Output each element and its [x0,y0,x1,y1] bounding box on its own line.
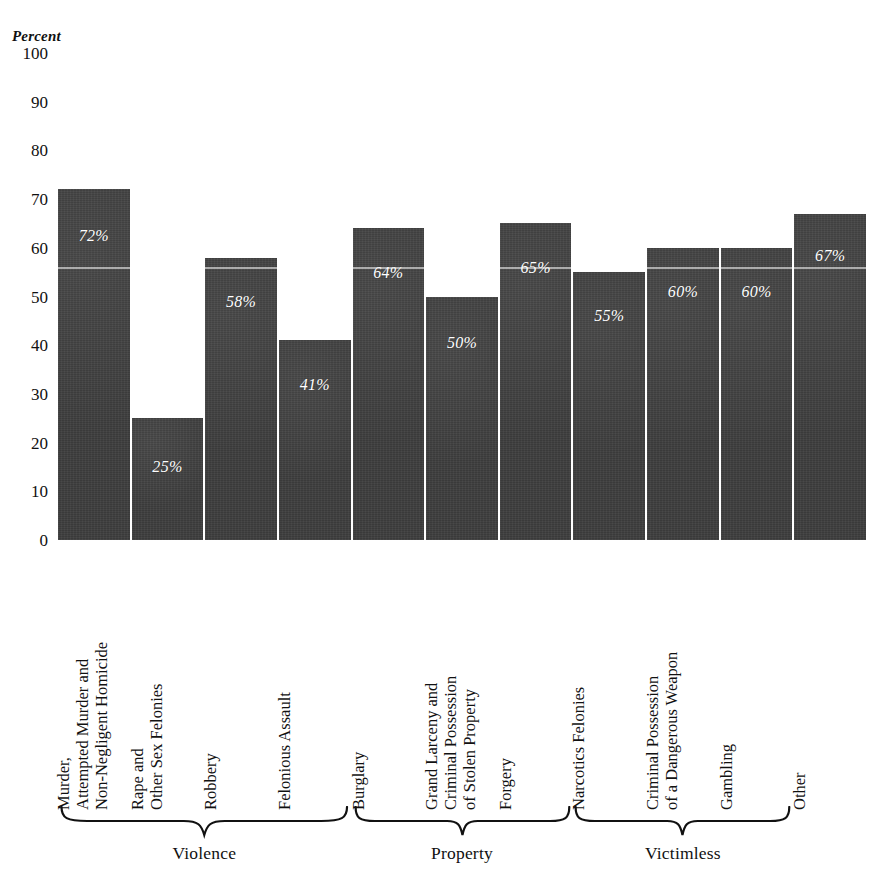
category-label-line: of a Dangerous Weapon [662,548,681,810]
y-tick-50: 50 [31,288,48,305]
category-label-column: Burglary [353,548,425,810]
category-label-line: of Stolen Property [460,548,479,810]
category-label-line: Burglary [349,548,368,810]
y-tick-20: 20 [31,434,48,451]
bar[interactable]: 58% [205,258,277,540]
bar-column: 60% [721,53,793,540]
bar-column: 64% [353,53,425,540]
y-tick-90: 90 [31,93,48,110]
bar[interactable]: 25% [132,418,204,540]
category-label-line: Forgery [496,548,515,810]
bar[interactable]: 55% [573,272,645,540]
group-label: Property [353,843,572,864]
bar[interactable]: 65% [500,223,572,540]
category-label-column: Other [794,548,866,810]
y-tick-0: 0 [40,532,49,549]
group-braces [58,806,866,846]
category-label-column: Forgery [500,548,572,810]
group-brace [58,806,351,840]
bar[interactable]: 67% [794,214,866,540]
cropped-heading-artifact [12,0,17,7]
y-tick-70: 70 [31,191,48,208]
bar-column: 41% [279,53,351,540]
bar-value-label: 72% [58,227,130,245]
bar-value-label: 60% [647,283,719,301]
bar-value-label: 67% [794,247,866,265]
category-label-line: Non-Negligent Homicide [92,548,111,810]
category-label-line: Criminal Possession [441,548,460,810]
category-label-column: Robbery [205,548,277,810]
plot-area: 72%25%58%41%64%50%65%55%60%60%67% [58,53,866,540]
category-label-line: Narcotics Felonies [569,548,588,810]
bar-value-label: 50% [426,334,498,352]
category-label-line: Criminal Possession [643,548,662,810]
group-brace [353,806,572,840]
category-label-line: Attempted Murder and [73,548,92,810]
category-label-column: Narcotics Felonies [573,548,645,810]
y-axis-title: Percent [12,28,61,45]
category-label-line: Murder, [54,548,73,810]
bar[interactable]: 72% [58,189,130,540]
bar-column: 60% [647,53,719,540]
bar-value-label: 65% [500,259,572,277]
y-tick-100: 100 [23,45,49,62]
category-label-column: Grand Larceny andCriminal Possessionof S… [426,548,498,810]
bar-column: 25% [132,53,204,540]
group-label: Victimless [573,843,792,864]
category-label-column: Rape andOther Sex Felonies [132,548,204,810]
bar-column: 65% [500,53,572,540]
category-label-line: Rape and [128,548,147,810]
y-tick-60: 60 [31,239,48,256]
bar-value-label: 41% [279,376,351,394]
y-tick-80: 80 [31,142,48,159]
category-label-column: Criminal Possessionof a Dangerous Weapon [647,548,719,810]
bar[interactable]: 60% [721,248,793,540]
category-label-line: Robbery [201,548,220,810]
bar[interactable]: 50% [426,297,498,541]
category-label-column: Murder,Attempted Murder andNon-Negligent… [58,548,130,810]
y-tick-40: 40 [31,337,48,354]
category-label-line: Other [790,548,809,810]
y-tick-30: 30 [31,385,48,402]
bar[interactable]: 41% [279,340,351,540]
category-label-column: Felonious Assault [279,548,351,810]
bar[interactable]: 60% [647,248,719,540]
group-labels: ViolencePropertyVictimless [58,843,866,873]
bar-column: 55% [573,53,645,540]
bar-value-label: 55% [573,307,645,325]
bar-value-label: 60% [721,283,793,301]
bar-series: 72%25%58%41%64%50%65%55%60%60%67% [58,53,866,540]
group-brace [573,806,792,840]
y-axis-tick-labels: 1009080706050403020100 [0,53,48,540]
category-label-line: Felonious Assault [275,548,294,810]
y-tick-10: 10 [31,483,48,500]
category-label-column: Gambling [721,548,793,810]
category-label-line: Other Sex Felonies [147,548,166,810]
bar[interactable]: 64% [353,228,425,540]
bar-value-label: 58% [205,293,277,311]
group-label: Violence [58,843,351,864]
bar-column: 72% [58,53,130,540]
category-label-line: Gambling [717,548,736,810]
category-labels: Murder,Attempted Murder andNon-Negligent… [58,548,866,810]
bar-column: 58% [205,53,277,540]
bar-column: 50% [426,53,498,540]
bar-value-label: 25% [132,458,204,476]
bar-value-label: 64% [353,264,425,282]
category-label-line: Grand Larceny and [422,548,441,810]
bar-column: 67% [794,53,866,540]
